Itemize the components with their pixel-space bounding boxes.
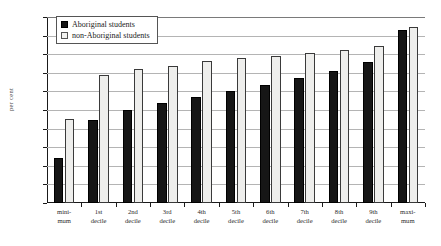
bar-aboriginal xyxy=(260,85,270,203)
bar-groups xyxy=(47,17,425,203)
x-axis-label: 3rddecile xyxy=(150,207,184,225)
legend-label-non-aboriginal: non-Aboriginal students xyxy=(72,31,150,40)
bar-group xyxy=(356,17,390,203)
x-axis-label: 6thdecile xyxy=(253,207,287,225)
y-tick-mark xyxy=(43,110,47,111)
bar-group xyxy=(288,17,322,203)
legend-label-aboriginal: Aboriginal students xyxy=(72,20,135,29)
bar-non-aboriginal xyxy=(374,46,384,203)
x-axis-label: 9thdecile xyxy=(356,207,390,225)
bar-aboriginal xyxy=(226,91,236,203)
x-axis-label: 4thdecile xyxy=(184,207,218,225)
bar-aboriginal xyxy=(363,62,373,203)
y-tick-mark xyxy=(43,54,47,55)
bar-aboriginal xyxy=(329,71,339,203)
bar-group xyxy=(81,17,115,203)
plot-area xyxy=(47,17,425,203)
x-axis-label: 7thdecile xyxy=(288,207,322,225)
bar-non-aboriginal xyxy=(134,69,144,203)
legend-swatch-icon-non-aboriginal xyxy=(61,32,68,39)
x-axis-label: 2nddecile xyxy=(116,207,150,225)
bar-aboriginal xyxy=(157,103,167,203)
bar-non-aboriginal xyxy=(237,58,247,203)
bar-group xyxy=(219,17,253,203)
bar-aboriginal xyxy=(191,97,201,203)
bar-non-aboriginal xyxy=(168,66,178,203)
x-axis-label: 5thdecile xyxy=(219,207,253,225)
bar-non-aboriginal xyxy=(271,56,281,203)
legend-item-aboriginal: Aboriginal students xyxy=(61,20,150,29)
y-axis-title: per cent xyxy=(7,72,14,128)
bar-aboriginal xyxy=(398,30,408,203)
y-tick-mark xyxy=(43,17,47,18)
bar-aboriginal xyxy=(88,120,98,203)
legend-swatch-icon-aboriginal xyxy=(61,21,68,28)
y-tick-mark xyxy=(43,184,47,185)
chart-legend: Aboriginal students non-Aboriginal stude… xyxy=(56,16,158,44)
y-tick-mark xyxy=(43,73,47,74)
bar-group xyxy=(322,17,356,203)
x-tick-mark xyxy=(425,203,426,207)
bar-non-aboriginal xyxy=(99,75,109,203)
bar-non-aboriginal xyxy=(340,50,350,203)
y-tick-mark xyxy=(43,36,47,37)
x-axis-label: maxi-mum xyxy=(391,207,425,225)
bar-non-aboriginal xyxy=(65,119,75,203)
x-axis-label: mini-mum xyxy=(47,207,81,225)
bar-non-aboriginal xyxy=(202,61,212,203)
bar-group xyxy=(47,17,81,203)
bar-group xyxy=(184,17,218,203)
bar-group xyxy=(150,17,184,203)
bar-aboriginal xyxy=(54,158,64,203)
bar-non-aboriginal xyxy=(305,53,315,203)
x-axis-labels: mini-mum1stdecile2nddecile3rddecile4thde… xyxy=(47,207,425,225)
bar-chart: per cent 0102030405060708090100 mini-mum… xyxy=(0,0,441,246)
y-tick-mark xyxy=(43,91,47,92)
bar-non-aboriginal xyxy=(409,27,419,203)
x-axis-label: 1stdecile xyxy=(81,207,115,225)
y-tick-mark xyxy=(43,166,47,167)
bar-group xyxy=(391,17,425,203)
y-tick-mark xyxy=(43,129,47,130)
y-tick-mark xyxy=(43,147,47,148)
bar-group xyxy=(253,17,287,203)
bar-aboriginal xyxy=(294,78,304,203)
y-tick-mark xyxy=(43,203,47,204)
legend-item-non-aboriginal: non-Aboriginal students xyxy=(61,31,150,40)
bar-aboriginal xyxy=(123,110,133,203)
x-axis-label: 8thdecile xyxy=(322,207,356,225)
bar-group xyxy=(116,17,150,203)
